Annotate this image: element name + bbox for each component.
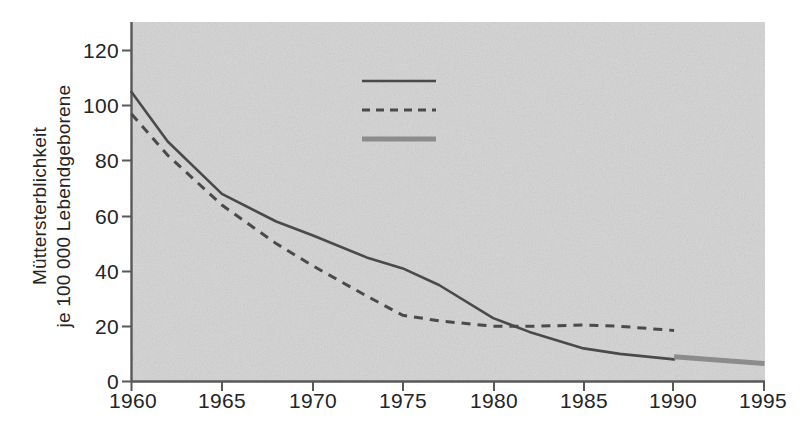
- chart-figure: Müttersterblichkeit je 100 000 Lebendgeb…: [0, 0, 809, 440]
- plot-canvas: [0, 0, 809, 440]
- y-tick-marks: [122, 51, 131, 382]
- plot-background-texture: [131, 22, 765, 381]
